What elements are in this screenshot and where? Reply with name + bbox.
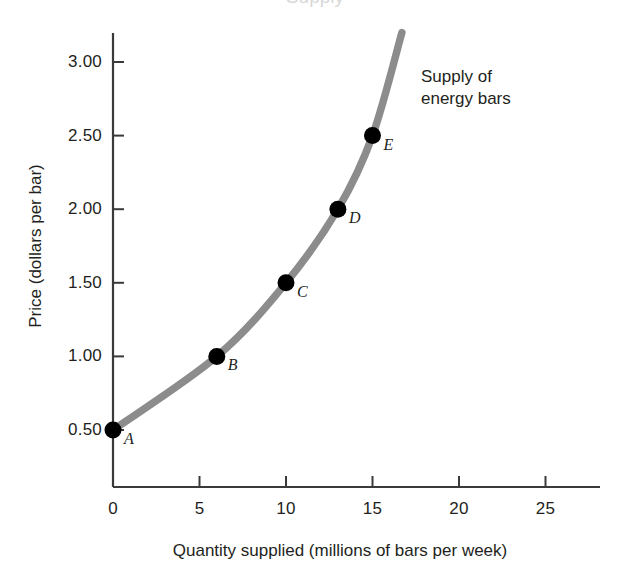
supply-curve-annotation: Supply of energy bars [421,66,511,110]
y-tick-label: 1.50 [40,273,102,293]
y-tick-label: 2.50 [40,126,102,146]
y-tick-label: 2.00 [40,199,102,219]
x-axis-title: Quantity supplied (millions of bars per … [0,541,630,561]
x-tick-label: 0 [108,499,118,519]
data-point-label-a: A [124,430,134,448]
x-tick-label: 15 [363,499,382,519]
y-axis-title: Price (dollars per bar) [26,136,46,356]
data-point-marker [329,201,346,218]
supply-curve-annotation-line1: Supply of [421,66,511,88]
x-tick-label: 10 [276,499,295,519]
data-point-marker [364,127,381,144]
data-point-label-e: E [384,136,394,154]
x-tick-label: 20 [449,499,468,519]
x-tick-label: 25 [536,499,555,519]
data-point-label-b: B [228,356,238,374]
data-point-label-c: C [297,283,308,301]
data-point-markers [105,127,382,438]
supply-curve-figure: Supply 0.501.001.502.002.503.00 05101520… [0,0,630,579]
data-point-marker [105,422,122,439]
y-tick-label: 0.50 [40,420,102,440]
data-point-label-d: D [349,209,361,227]
data-point-marker [208,348,225,365]
y-tick-label: 3.00 [40,52,102,72]
supply-curve-annotation-line2: energy bars [421,88,511,110]
x-axis-ticks [200,476,546,487]
supply-curve-path [113,33,402,430]
axis-lines [113,33,600,487]
x-tick-label: 5 [195,499,205,519]
data-point-marker [278,274,295,291]
y-axis-ticks [113,62,124,430]
y-tick-label: 1.00 [40,346,102,366]
